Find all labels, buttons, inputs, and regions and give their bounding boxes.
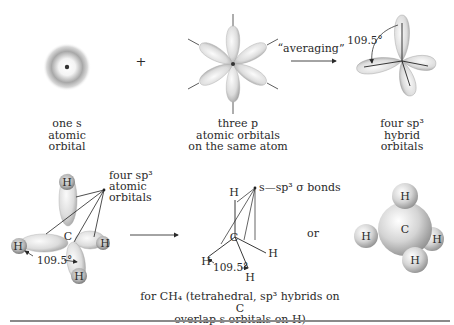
svg-text:C: C [230,231,238,244]
svg-text:H: H [62,176,72,189]
ch4-orbital-model: H H H H C 109.5° [11,174,110,284]
svg-text:C: C [64,230,72,243]
svg-text:H: H [400,190,410,203]
sp3-atomic-orbitals-label: four sp³ atomic orbitals [109,169,153,204]
bottom-rule [10,320,450,322]
svg-text:H: H [100,237,110,250]
orbital-hybridization-diagram: + “averaging” [0,0,454,325]
svg-text:H: H [432,233,442,246]
svg-text:H: H [410,254,420,267]
ch4-line-model: H H H H C s—sp³ σ bonds 109.5° [201,181,341,284]
or-text: or [307,227,320,240]
svg-text:orbitals: orbitals [109,191,152,204]
p-orbitals-figure [188,14,278,114]
angle-label: 109.5° [37,254,72,266]
svg-text:C: C [401,223,409,236]
svg-text:H: H [74,270,84,283]
svg-text:H: H [229,186,239,199]
s-orbital-caption: one s atomic orbital [27,118,107,153]
svg-text:H: H [268,247,278,260]
sp3-hybrid-figure: 109.5° [347,15,436,98]
angle-label: 109.5° [213,261,248,273]
svg-text:H: H [13,240,23,253]
angle-label: 109.5° [347,34,382,46]
averaging-label: “averaging” [277,42,344,55]
plus-sign: + [136,54,147,69]
svg-text:H: H [361,230,371,243]
s-orbital-figure [43,43,91,91]
p-orbitals-caption: three p atomic orbitals on the same atom [178,118,298,153]
sp3-hybrid-caption: four sp³ hybrid orbitals [362,118,442,153]
ch4-space-filling-model: H H H H C [354,183,444,273]
sigma-bonds-label: s—sp³ σ bonds [259,181,341,194]
svg-text:H: H [201,255,211,268]
